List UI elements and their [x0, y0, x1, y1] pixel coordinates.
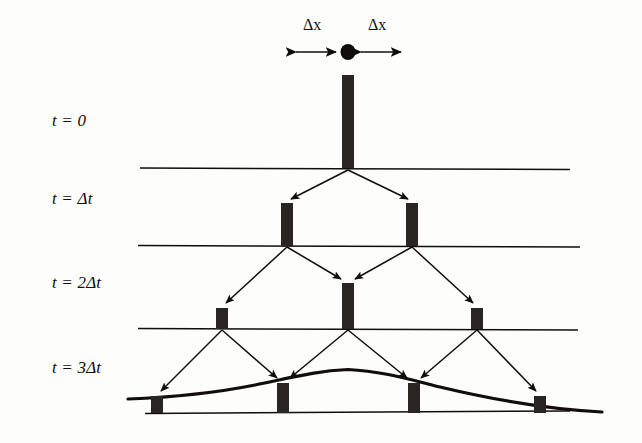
node-bar-t1-1 — [406, 203, 418, 246]
branch-arrow-t0-down-left — [291, 170, 348, 199]
delta-x-right-text: Δx — [368, 16, 386, 33]
branch-arrow-t2a-down-left — [161, 330, 222, 391]
probability-density-curve — [128, 370, 602, 413]
node-bar-t1-0 — [281, 203, 293, 246]
branch-arrow-t1a-down-left — [226, 247, 287, 303]
node-bar-t3-0 — [151, 396, 163, 413]
time-label-t2-var: t = 2Δt — [52, 273, 101, 292]
node-bar-t2-2 — [471, 308, 483, 329]
node-bar-t0-0 — [342, 75, 354, 168]
node-bar-t3-1 — [277, 383, 289, 413]
node-bar-t2-0 — [216, 308, 228, 329]
time-label-t0-var: t = 0 — [52, 111, 86, 130]
branch-arrow-t1b-down-left — [355, 247, 412, 279]
branch-arrow-t0-down-right — [348, 170, 408, 199]
time-label-t3-var: t = 3Δt — [52, 358, 101, 377]
time-label-t0: t = 0 — [52, 111, 86, 131]
baselines-group — [138, 168, 580, 414]
time-label-t1-var: t = Δt — [52, 189, 93, 208]
baseline-t1 — [138, 246, 580, 248]
node-bars-group — [151, 75, 546, 413]
branch-arrow-t1a-down-right — [287, 247, 341, 279]
baseline-t3 — [145, 411, 570, 414]
node-bar-t3-2 — [408, 383, 420, 413]
delta-x-right-label: Δx — [368, 16, 386, 34]
baseline-t0 — [140, 168, 570, 170]
branch-arrow-t2a-down-right — [222, 330, 277, 378]
origin-node-dot — [341, 44, 356, 60]
branch-arrow-t2c-down-right — [477, 330, 536, 391]
spacing-annotation-group — [296, 44, 401, 60]
delta-x-left-text: Δx — [303, 16, 321, 33]
branch-arrows-group — [161, 170, 536, 391]
node-bar-t2-1 — [342, 283, 354, 329]
baseline-t2 — [138, 329, 578, 331]
node-bar-t3-3 — [534, 396, 546, 413]
branch-arrow-t1b-down-right — [412, 247, 473, 303]
time-label-t3: t = 3Δt — [52, 358, 101, 378]
lattice-figure: Δx Δx t = 0 t = Δt t = 2Δt t = 3Δt — [0, 0, 642, 443]
time-label-t2: t = 2Δt — [52, 273, 101, 293]
branch-arrow-t2c-down-left — [421, 330, 477, 378]
time-label-t1: t = Δt — [52, 189, 93, 209]
delta-x-left-label: Δx — [303, 16, 321, 34]
